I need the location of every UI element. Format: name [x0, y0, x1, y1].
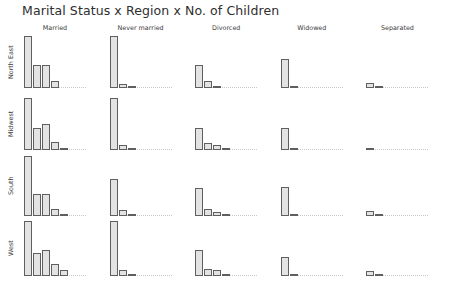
bar — [366, 271, 374, 276]
bar — [290, 148, 298, 150]
bar — [128, 274, 136, 276]
bar — [281, 187, 289, 216]
panel-row-north-east: North East — [24, 36, 452, 88]
bar — [119, 270, 127, 276]
panel — [281, 221, 343, 276]
panel — [110, 98, 172, 150]
bar — [119, 84, 127, 88]
bar-series — [281, 221, 343, 276]
bar-series — [110, 221, 172, 276]
bar — [60, 214, 68, 216]
bar — [281, 59, 289, 88]
bar-series — [195, 98, 257, 150]
bar-series — [366, 221, 428, 276]
bar — [33, 194, 41, 216]
panel — [366, 221, 428, 276]
bar-series — [110, 156, 172, 216]
bar — [119, 145, 127, 150]
bar — [213, 86, 221, 88]
panel — [195, 221, 257, 276]
panel-grid: North EastMidwestSouthWest — [24, 36, 452, 284]
bar — [51, 264, 59, 276]
bar — [204, 269, 212, 276]
panel — [110, 221, 172, 276]
bar — [128, 214, 136, 216]
bar — [366, 83, 374, 88]
bar-series — [366, 36, 428, 88]
bar-series — [366, 98, 428, 150]
bar — [204, 81, 212, 88]
bar — [110, 221, 118, 276]
panel — [281, 98, 343, 150]
column-header-divorced: Divorced — [212, 24, 240, 32]
bar — [213, 212, 221, 216]
bar-series — [24, 221, 86, 276]
bar-series — [24, 98, 86, 150]
bar-series — [24, 36, 86, 88]
bar — [213, 145, 221, 150]
bar — [110, 36, 118, 88]
column-header-separated: Separated — [381, 24, 414, 32]
bar — [51, 81, 59, 88]
row-label-west: West — [7, 221, 15, 276]
bar — [204, 209, 212, 216]
panel — [281, 36, 343, 88]
bar — [128, 148, 136, 150]
column-header-never-married: Never married — [118, 24, 164, 32]
bar — [375, 86, 383, 88]
bar — [33, 253, 41, 276]
bar — [281, 257, 289, 276]
bar — [375, 274, 383, 276]
column-header-widowed: Widowed — [297, 24, 326, 32]
bar-series — [110, 36, 172, 88]
panel-row-south: South — [24, 156, 452, 216]
bar — [110, 98, 118, 150]
bar — [24, 98, 32, 150]
bar — [213, 270, 221, 276]
bar-series — [366, 156, 428, 216]
bar — [195, 128, 203, 150]
row-label-south: South — [7, 156, 15, 216]
bar — [42, 194, 50, 216]
bar-series — [110, 98, 172, 150]
bar — [60, 270, 68, 276]
bar-series — [195, 156, 257, 216]
panel — [366, 156, 428, 216]
bar — [222, 274, 230, 276]
bar-series — [281, 98, 343, 150]
bar — [204, 143, 212, 150]
bar — [24, 221, 32, 276]
bar — [110, 179, 118, 216]
panel — [195, 36, 257, 88]
bar — [290, 86, 298, 88]
bar — [290, 274, 298, 276]
bar — [366, 211, 374, 216]
bar-series — [195, 221, 257, 276]
bar — [51, 142, 59, 150]
row-label-midwest: Midwest — [7, 98, 15, 150]
bar — [128, 86, 136, 88]
bar-series — [24, 156, 86, 216]
bar — [33, 65, 41, 88]
bar — [24, 156, 32, 216]
bar — [375, 214, 383, 216]
panel-row-west: West — [24, 221, 452, 276]
bar — [222, 214, 230, 216]
bar — [222, 148, 230, 150]
panel-row-midwest: Midwest — [24, 98, 452, 150]
panel — [24, 221, 86, 276]
panel — [195, 98, 257, 150]
panel — [366, 98, 428, 150]
bar — [195, 188, 203, 216]
column-header-married: Married — [43, 24, 67, 32]
panel — [366, 36, 428, 88]
bar — [42, 250, 50, 276]
bar — [195, 250, 203, 276]
panel — [24, 98, 86, 150]
bar — [51, 209, 59, 216]
bar-series — [281, 36, 343, 88]
bar — [42, 124, 50, 150]
panel — [24, 36, 86, 88]
bar — [33, 128, 41, 150]
page-title: Marital Status x Region x No. of Childre… — [22, 3, 279, 18]
